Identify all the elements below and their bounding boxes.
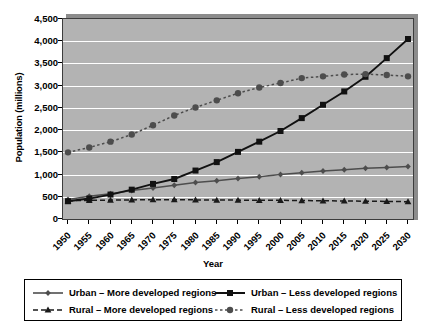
legend-column-right: Urban – Less developed regionsRural – Le… bbox=[213, 284, 399, 318]
y-axis-label: 4,500 bbox=[34, 13, 58, 24]
legend-label: Rural – More developed regions bbox=[69, 304, 213, 315]
x-axis-tick bbox=[88, 220, 89, 224]
legend-item[interactable]: Rural – More developed regions bbox=[31, 301, 211, 318]
y-axis-tick bbox=[58, 40, 62, 41]
population-line-chart: Population (millions) 05001,0001,5002,00… bbox=[0, 0, 426, 331]
x-axis-tick bbox=[216, 220, 217, 224]
series-line bbox=[68, 167, 408, 200]
y-axis-label: 3,500 bbox=[34, 57, 58, 68]
series-triangle bbox=[65, 196, 412, 204]
x-axis-tick bbox=[258, 220, 259, 224]
y-axis-tick bbox=[58, 107, 62, 108]
data-point-marker bbox=[227, 307, 233, 313]
x-axis-tick bbox=[280, 220, 281, 224]
legend-item[interactable]: Urban – More developed regions bbox=[31, 284, 211, 301]
legend-marker-triangle bbox=[31, 301, 65, 318]
x-axis-tick bbox=[152, 220, 153, 224]
data-point-marker bbox=[256, 139, 262, 145]
y-axis-tick bbox=[58, 151, 62, 152]
data-point-marker bbox=[214, 159, 220, 165]
chart-legend: Urban – More developed regionsRural – Mo… bbox=[24, 279, 402, 321]
y-axis-tick bbox=[58, 196, 62, 197]
data-point-marker bbox=[65, 198, 71, 204]
data-point-marker bbox=[277, 80, 283, 86]
plot-area bbox=[62, 18, 414, 220]
data-series-layer bbox=[63, 19, 413, 219]
data-point-marker bbox=[86, 144, 92, 150]
data-point-marker bbox=[341, 88, 347, 94]
data-point-marker bbox=[405, 73, 411, 79]
x-axis-tick bbox=[67, 220, 68, 224]
data-point-marker bbox=[171, 176, 177, 182]
data-point-marker bbox=[150, 122, 156, 128]
data-point-marker bbox=[235, 176, 241, 182]
data-point-marker bbox=[171, 112, 177, 118]
y-axis-label: 3,000 bbox=[34, 79, 58, 90]
legend-marker-circle bbox=[213, 301, 247, 318]
x-axis-tick bbox=[110, 220, 111, 224]
y-axis-label: 500 bbox=[42, 190, 58, 201]
y-axis-tick bbox=[58, 85, 62, 86]
x-axis-tick bbox=[343, 220, 344, 224]
data-point-marker bbox=[299, 75, 305, 81]
data-point-marker bbox=[86, 196, 92, 202]
y-axis-label: 4,000 bbox=[34, 35, 58, 46]
legend-label: Urban – More developed regions bbox=[69, 287, 216, 298]
y-axis-label: 2,000 bbox=[34, 124, 58, 135]
data-point-marker bbox=[256, 84, 262, 90]
data-point-marker bbox=[384, 164, 390, 170]
data-point-marker bbox=[341, 167, 347, 173]
y-axis-tick-labels: 05001,0001,5002,0002,5003,0003,5004,0004… bbox=[14, 14, 58, 220]
legend-sample bbox=[31, 301, 65, 318]
data-point-marker bbox=[320, 102, 326, 108]
y-axis-label: 1,500 bbox=[34, 146, 58, 157]
data-point-marker bbox=[214, 178, 220, 184]
y-axis-tick bbox=[58, 18, 62, 19]
data-point-marker bbox=[341, 71, 347, 77]
x-axis-tick bbox=[386, 220, 387, 224]
legend-sample bbox=[213, 284, 247, 301]
data-point-marker bbox=[150, 181, 156, 187]
data-point-marker bbox=[320, 73, 326, 79]
legend-sample bbox=[31, 284, 65, 301]
y-axis-label: 2,500 bbox=[34, 101, 58, 112]
series-circle bbox=[65, 71, 411, 156]
data-point-marker bbox=[235, 149, 241, 155]
data-point-marker bbox=[107, 138, 113, 144]
legend-label: Urban – Less developed regions bbox=[251, 287, 397, 298]
y-axis-tick bbox=[58, 129, 62, 130]
data-point-marker bbox=[214, 97, 220, 103]
data-point-marker bbox=[256, 174, 262, 180]
data-point-marker bbox=[363, 165, 369, 171]
data-point-marker bbox=[235, 90, 241, 96]
x-axis-tick bbox=[195, 220, 196, 224]
x-axis-tick bbox=[301, 220, 302, 224]
data-point-marker bbox=[65, 149, 71, 155]
data-point-marker bbox=[362, 71, 368, 77]
legend-label: Rural – Less developed regions bbox=[251, 304, 394, 315]
legend-column-left: Urban – More developed regionsRural – Mo… bbox=[31, 284, 211, 318]
data-point-marker bbox=[384, 55, 390, 61]
data-point-marker bbox=[405, 36, 411, 42]
data-point-marker bbox=[227, 290, 233, 296]
data-point-marker bbox=[320, 168, 326, 174]
data-point-marker bbox=[192, 104, 198, 110]
legend-item[interactable]: Urban – Less developed regions bbox=[213, 284, 399, 301]
data-point-marker bbox=[108, 192, 114, 198]
data-point-marker bbox=[193, 168, 199, 174]
data-point-marker bbox=[278, 128, 284, 134]
x-axis-tick bbox=[131, 220, 132, 224]
legend-item[interactable]: Rural – Less developed regions bbox=[213, 301, 399, 318]
x-axis-tick bbox=[173, 220, 174, 224]
data-point-marker bbox=[384, 72, 390, 78]
x-axis-title: Year bbox=[0, 258, 426, 269]
legend-sample bbox=[213, 301, 247, 318]
y-axis-tick bbox=[58, 218, 62, 219]
data-point-marker bbox=[299, 170, 305, 176]
data-point-marker bbox=[193, 180, 199, 186]
data-point-marker bbox=[405, 164, 411, 170]
y-axis-tick bbox=[58, 174, 62, 175]
data-point-marker bbox=[45, 290, 51, 296]
legend-marker-diamond bbox=[31, 284, 65, 301]
data-point-marker bbox=[299, 115, 305, 121]
